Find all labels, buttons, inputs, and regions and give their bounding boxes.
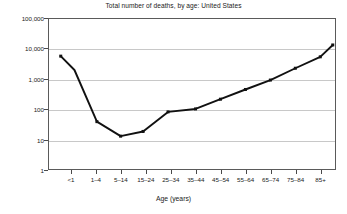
y-tick-mark: [44, 140, 48, 141]
x-tick-mark: [246, 170, 247, 174]
x-tick-mark: [96, 170, 97, 174]
data-point-marker: [95, 120, 98, 123]
y-tick-label: 10: [37, 136, 44, 143]
chart-title: Total number of deaths, by age: United S…: [0, 2, 347, 9]
x-tick-label: 85+: [315, 176, 326, 183]
data-series-line: [49, 19, 337, 171]
x-tick-label: 1–4: [91, 176, 101, 183]
x-tick-label: <1: [67, 176, 74, 183]
x-tick-label: 55–64: [237, 176, 254, 183]
x-tick-label: 25–34: [162, 176, 179, 183]
x-tick-mark: [171, 170, 172, 174]
x-tick-label: 75–84: [287, 176, 304, 183]
y-tick-mark: [44, 109, 48, 110]
x-tick-mark: [271, 170, 272, 174]
data-point-marker: [269, 79, 272, 82]
x-tick-mark: [196, 170, 197, 174]
x-tick-mark: [296, 170, 297, 174]
data-point-marker: [194, 107, 197, 110]
x-tick-mark: [321, 170, 322, 174]
x-tick-mark: [146, 170, 147, 174]
x-tick-label: 5–14: [114, 176, 128, 183]
y-tick-mark: [44, 48, 48, 49]
y-tick-mark: [44, 79, 48, 80]
y-tick-mark: [44, 18, 48, 19]
data-point-marker: [167, 110, 170, 113]
data-point-marker: [319, 55, 322, 58]
y-tick-mark: [44, 170, 48, 171]
x-tick-mark: [71, 170, 72, 174]
series-polyline: [61, 45, 333, 136]
data-point-marker: [219, 98, 222, 101]
data-point-marker: [142, 130, 145, 133]
x-tick-mark: [221, 170, 222, 174]
data-point-marker: [59, 55, 62, 58]
y-tick-label: 100,000: [22, 15, 44, 22]
x-tick-label: 15–24: [137, 176, 154, 183]
y-tick-label: 100: [34, 106, 44, 113]
y-tick-label: 1: [41, 167, 44, 174]
x-tick-label: 65–74: [262, 176, 279, 183]
y-tick-label: 10,000: [25, 45, 44, 52]
x-tick-label: 45–54: [212, 176, 229, 183]
y-tick-label: 1,000: [29, 75, 44, 82]
plot-area: [48, 18, 336, 170]
data-point-marker: [294, 67, 297, 70]
data-point-marker: [244, 88, 247, 91]
x-tick-mark: [121, 170, 122, 174]
data-point-marker: [331, 43, 334, 46]
x-tick-label: 35–44: [187, 176, 204, 183]
data-point-marker: [119, 135, 122, 138]
chart-container: Total number of deaths, by age: United S…: [0, 0, 347, 214]
x-axis-title: Age (years): [0, 195, 347, 202]
